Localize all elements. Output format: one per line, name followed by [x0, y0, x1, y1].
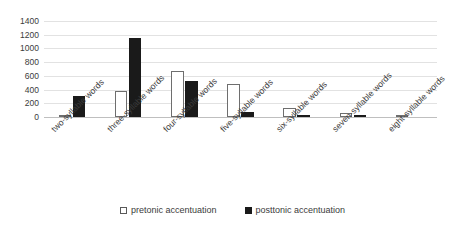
bar-posttonic [241, 112, 254, 117]
y-axis-tick-label: 1000 [20, 44, 39, 53]
legend-label-pretonic: pretonic accentuation [131, 206, 217, 215]
bar-posttonic [354, 115, 367, 117]
y-axis-tick-label: 800 [25, 58, 39, 67]
bar-posttonic [129, 38, 142, 117]
y-axis-tick-label: 600 [25, 72, 39, 81]
bar-posttonic [297, 115, 310, 117]
gridline [44, 21, 437, 22]
gridline [44, 35, 437, 36]
legend-item-pretonic: pretonic accentuation [120, 206, 217, 215]
chart-legend: pretonic accentuation posttonic accentua… [0, 206, 465, 215]
axis-baseline [44, 117, 437, 118]
y-axis-tick-label: 1400 [20, 17, 39, 26]
bar-chart: 0200400600800100012001400 two-syllable w… [0, 0, 465, 200]
y-axis-tick-label: 1200 [20, 30, 39, 39]
y-axis-tick-label: 200 [25, 99, 39, 108]
legend-item-posttonic: posttonic accentuation [245, 206, 346, 215]
bar-pretonic [396, 115, 409, 117]
y-axis-tick-label: 400 [25, 85, 39, 94]
y-axis-tick-label: 0 [34, 113, 39, 122]
open-square-swatch-icon [120, 207, 127, 214]
legend-label-posttonic: posttonic accentuation [256, 206, 346, 215]
bar-pretonic [340, 113, 353, 117]
filled-square-swatch-icon [245, 207, 252, 214]
bar-pretonic [227, 84, 240, 117]
bar-pretonic [115, 91, 128, 117]
bar-pretonic [59, 115, 72, 117]
bar-posttonic [73, 96, 86, 117]
bar-pretonic [171, 71, 184, 117]
gridline [44, 48, 437, 49]
gridline [44, 62, 437, 63]
gridline [44, 90, 437, 91]
bar-pretonic [283, 108, 296, 117]
plot-area: 0200400600800100012001400 [44, 21, 437, 117]
gridline [44, 76, 437, 77]
bar-posttonic [185, 81, 198, 117]
chart-screenshot: 0200400600800100012001400 two-syllable w… [0, 0, 465, 251]
gridline [44, 103, 437, 104]
